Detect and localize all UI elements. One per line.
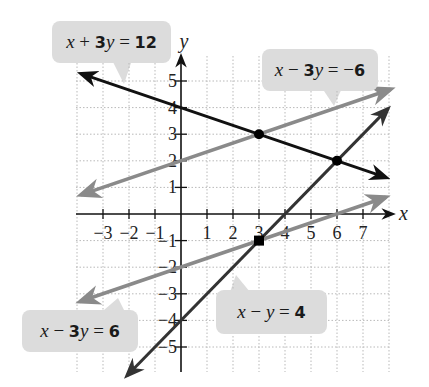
- equation-var: x: [40, 320, 48, 342]
- equation-num: 12: [135, 33, 157, 52]
- equation-var: y: [315, 59, 323, 81]
- y-tick-label: 5: [168, 71, 177, 91]
- equation-num: 3: [69, 322, 80, 341]
- x-tick-label: 7: [359, 223, 368, 243]
- x-tick-label: 1: [203, 223, 212, 243]
- intersection-point: [254, 129, 264, 139]
- x-tick-label: −3: [93, 223, 112, 243]
- equation-num: 3: [95, 33, 106, 52]
- equation-num: 4: [295, 303, 306, 322]
- y-tick-label: 1: [168, 177, 177, 197]
- callout-x-minus-y-eq-4: x − y = 4: [216, 290, 327, 334]
- callout-tails: [104, 60, 342, 310]
- equation-op: −: [283, 59, 303, 81]
- y-tick-label: 3: [168, 124, 177, 144]
- x-tick-label: −2: [119, 223, 138, 243]
- intersection-point: [332, 156, 342, 166]
- x-axis-label: x: [398, 202, 408, 224]
- equation-op: −: [49, 320, 69, 342]
- equation-num: 6: [354, 61, 365, 80]
- y-tick-label: 4: [168, 98, 177, 118]
- equation-var: y: [106, 31, 114, 53]
- x-tick-label: 2: [229, 223, 238, 243]
- intersection-point-square: [254, 236, 264, 246]
- callout-x-plus-3y-eq-12: x + 3y = 12: [52, 21, 171, 63]
- equation-num: 6: [109, 322, 120, 341]
- x-tick-label: 6: [333, 223, 342, 243]
- y-tick-label: −3: [158, 284, 177, 304]
- y-tick-label: −1: [158, 231, 177, 251]
- callout-x-minus-3y-eq-neg6: x − 3y = −6: [262, 49, 378, 91]
- equation-op: = −: [323, 59, 354, 81]
- equation-var: x: [275, 59, 283, 81]
- equation-num: 3: [304, 61, 315, 80]
- callout-x-minus-3y-eq-6: x − 3y = 6: [22, 310, 138, 352]
- equation-var: y: [266, 301, 274, 323]
- equation-op: =: [114, 31, 134, 53]
- equation-op: =: [88, 320, 108, 342]
- equation-var: x: [237, 301, 245, 323]
- equation-var: x: [66, 31, 74, 53]
- equation-var: y: [80, 320, 88, 342]
- equation-op: +: [75, 31, 95, 53]
- y-axis-label: y: [178, 30, 189, 53]
- x-tick-label: 5: [307, 223, 316, 243]
- equation-op: −: [246, 301, 266, 323]
- equation-op: =: [274, 301, 294, 323]
- line-series-2: [81, 89, 391, 195]
